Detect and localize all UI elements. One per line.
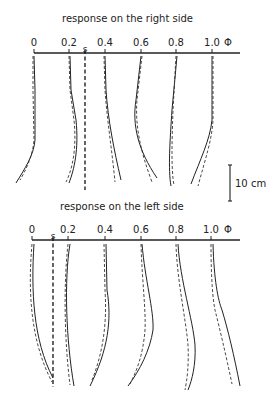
response-curves	[30, 244, 240, 390]
solid-curve	[135, 56, 157, 178]
tick-label: 0	[29, 224, 35, 235]
tick-label: 0.4	[97, 37, 113, 48]
phi-symbol: Φ	[224, 37, 232, 48]
dashed-curve	[198, 56, 213, 186]
solid-curve	[69, 56, 77, 183]
s-label: s	[51, 231, 56, 241]
panel-left-side: response on the left side 00.20.40.60.81…	[29, 201, 240, 390]
tick-label: 1.0	[203, 224, 219, 235]
tick-label: 0.2	[60, 224, 76, 235]
scale-bar: 10 cm	[228, 165, 266, 201]
scale-bar-label: 10 cm	[235, 178, 266, 189]
solid-curve	[169, 56, 177, 186]
response-curves	[16, 56, 213, 186]
panel-right-side: response on the right side 00.20.40.60.8…	[16, 13, 240, 190]
tick-label: 0	[31, 37, 37, 48]
solid-curve	[178, 244, 195, 390]
solid-curve	[191, 56, 212, 184]
solid-curve	[90, 244, 109, 386]
solid-curve	[16, 56, 35, 183]
s-label: s	[83, 44, 88, 54]
dashed-curve	[30, 244, 52, 382]
tick-label: 0.8	[168, 224, 184, 235]
tick-label: 0.8	[168, 37, 184, 48]
solid-curve	[128, 244, 153, 386]
dashed-curve	[20, 56, 34, 180]
solid-curve	[33, 244, 53, 378]
tick-label: 0.2	[61, 37, 77, 48]
solid-curve	[213, 244, 240, 386]
panel-title: response on the right side	[62, 13, 193, 24]
panel-title: response on the left side	[60, 201, 184, 212]
s-marker: s	[51, 231, 56, 387]
dashed-curve	[176, 244, 188, 390]
phi-symbol: Φ	[224, 224, 232, 235]
tick-label: 0.6	[133, 224, 149, 235]
dashed-curve	[92, 244, 106, 380]
response-figure: response on the right side 00.20.40.60.8…	[0, 0, 278, 402]
axis-ticks: 00.20.40.60.81.0	[29, 224, 219, 240]
axis-ticks: 00.20.40.60.81.0	[31, 37, 220, 53]
s-marker: s	[83, 44, 88, 190]
tick-label: 0.4	[97, 224, 113, 235]
tick-label: 0.6	[133, 37, 149, 48]
tick-label: 1.0	[204, 37, 220, 48]
